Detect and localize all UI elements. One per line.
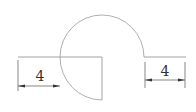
arrowhead-icon — [145, 79, 152, 82]
left-dimension-label: 4 — [36, 68, 45, 84]
technical-drawing: 4 4 — [0, 0, 196, 112]
upper-semicircle-arc — [60, 15, 144, 57]
arrowhead-icon — [178, 79, 185, 82]
right-dimension: 4 — [145, 62, 185, 88]
arrowhead-icon — [53, 85, 60, 88]
arrowhead-icon — [18, 85, 25, 88]
right-dimension-label: 4 — [161, 63, 170, 79]
left-dimension: 4 — [18, 60, 60, 91]
lower-quarter-arc — [60, 57, 102, 100]
